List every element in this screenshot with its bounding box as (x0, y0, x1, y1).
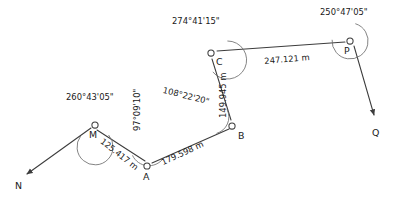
station-label-C: C (216, 57, 223, 66)
angle-label-P: 250°47'05" (320, 8, 368, 16)
station-label-Q: Q (372, 128, 379, 137)
station-marker-A (144, 163, 150, 169)
station-label-N: N (15, 181, 22, 190)
leg-M-N (27, 128, 91, 174)
traverse-diagram: N M A B C P Q 125.417 m 179.598 m 149.94… (0, 0, 409, 201)
angle-label-C: 274°41'15" (172, 17, 220, 25)
angle-label-A: 97°09'10" (133, 89, 141, 131)
distance-label-B-C: 149.945 m (219, 73, 227, 118)
station-marker-M (92, 122, 98, 128)
angle-label-M: 260°43'05" (66, 93, 114, 101)
station-label-M: M (89, 130, 97, 139)
traverse-legs (27, 42, 374, 174)
station-label-P: P (344, 46, 350, 55)
leg-C-P (217, 42, 345, 51)
station-marker-B (229, 123, 235, 129)
leg-P-Q (354, 46, 374, 115)
station-label-A: A (143, 172, 149, 181)
station-label-B: B (238, 131, 244, 140)
station-marker-P (347, 38, 353, 44)
station-marker-C (208, 50, 214, 56)
